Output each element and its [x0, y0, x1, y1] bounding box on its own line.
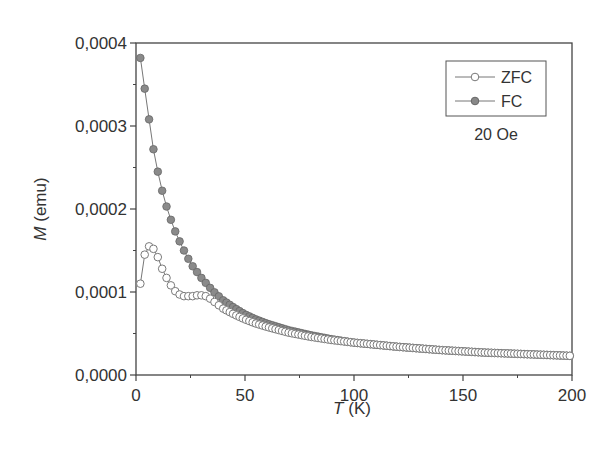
data-point — [158, 187, 166, 195]
legend: ZFC FC — [446, 61, 546, 116]
y-axis-ticks: 0,00000,00010,00020,00030,0004 — [75, 34, 136, 385]
y-tick-label: 0,0004 — [75, 34, 127, 53]
data-point — [141, 251, 149, 259]
data-point — [150, 145, 158, 153]
data-point — [154, 253, 162, 261]
x-tick-label: 200 — [558, 386, 586, 405]
data-point — [154, 168, 162, 176]
x-axis-title: T (K) — [333, 399, 371, 418]
legend-label-zfc: ZFC — [501, 69, 532, 86]
x-tick-label: 0 — [131, 386, 140, 405]
filled-circle-marker-icon — [471, 97, 479, 105]
y-tick-label: 0,0002 — [75, 200, 127, 219]
field-annotation: 20 Oe — [474, 126, 518, 143]
y-axis-title: M (emu) — [31, 177, 50, 240]
x-tick-label: 150 — [449, 386, 477, 405]
data-point — [145, 116, 153, 124]
chart: 0,00000,00010,00020,00030,0004 050100150… — [0, 0, 610, 468]
data-point — [185, 255, 193, 263]
data-point — [163, 203, 171, 211]
data-point — [163, 274, 171, 282]
y-tick-label: 0,0001 — [75, 283, 127, 302]
data-point — [180, 247, 188, 255]
data-point — [566, 352, 574, 360]
y-tick-label: 0,0003 — [75, 117, 127, 136]
data-point — [137, 54, 145, 62]
data-point — [167, 216, 175, 224]
data-point — [176, 238, 184, 246]
data-point — [137, 280, 145, 288]
data-point — [150, 245, 158, 253]
data-point — [141, 85, 149, 93]
y-tick-label: 0,0000 — [75, 366, 127, 385]
data-point — [158, 265, 166, 273]
legend-label-fc: FC — [501, 93, 522, 110]
data-point — [171, 228, 179, 236]
x-tick-label: 50 — [236, 386, 255, 405]
series-zfc — [137, 243, 574, 360]
open-circle-marker-icon — [471, 73, 479, 81]
